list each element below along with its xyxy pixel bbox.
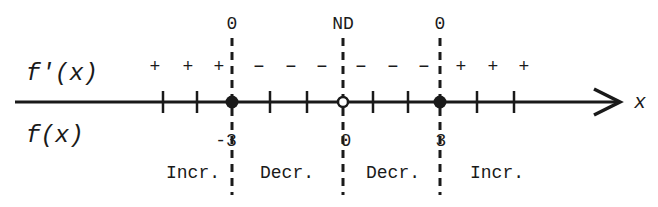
- derivative-signs: + + + − − − − − − + + +: [150, 57, 530, 77]
- sign: +: [214, 57, 225, 77]
- sign: +: [183, 57, 194, 77]
- sign: −: [419, 57, 430, 77]
- critical-point-filled-minus-3: [226, 96, 239, 109]
- function-row-label: f(x): [26, 122, 84, 149]
- behavior-label: Incr.: [470, 163, 524, 183]
- sign: +: [488, 57, 499, 77]
- derivative-row-label: f'(x): [26, 60, 98, 87]
- critical-point-filled-3: [434, 96, 447, 109]
- sign: +: [519, 57, 530, 77]
- behavior-label: Decr.: [366, 163, 420, 183]
- behavior-label: Incr.: [166, 163, 220, 183]
- sign: +: [150, 57, 161, 77]
- derivative-value: 0: [435, 14, 446, 34]
- sign: −: [286, 57, 297, 77]
- axis-label: x: [633, 91, 646, 114]
- sign: −: [356, 57, 367, 77]
- behavior-label: Decr.: [260, 163, 314, 183]
- sign: −: [388, 57, 399, 77]
- x-value: 3: [436, 131, 447, 151]
- sign-chart: f'(x) f(x) x 0 ND 0 -3 0 3 + + + − − − −…: [0, 0, 658, 207]
- derivative-value: 0: [227, 14, 238, 34]
- sign: −: [254, 57, 265, 77]
- sign: +: [456, 57, 467, 77]
- derivative-value: ND: [332, 14, 354, 34]
- x-value: 0: [341, 131, 352, 151]
- sign: −: [317, 57, 328, 77]
- open-point-0: [338, 97, 348, 107]
- x-value: -3: [215, 131, 237, 151]
